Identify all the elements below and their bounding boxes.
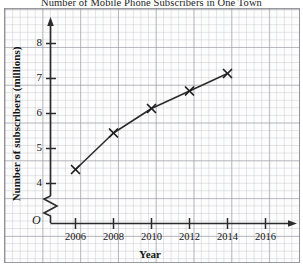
x-tick-label-2012: 2012 [170,231,210,242]
data-point-2006 [72,166,80,174]
x-axis-arrow [288,220,297,227]
data-point-2010 [148,105,156,113]
y-tick-label-7: 7 [26,71,42,83]
x-tick-label-2008: 2008 [94,231,134,242]
x-tick-label-2016: 2016 [246,231,286,242]
y-tick-label-5: 5 [26,141,42,153]
data-point-markers [72,70,232,174]
data-point-2014 [224,70,232,78]
y-tick-label-8: 8 [26,36,42,48]
data-point-2012 [186,87,194,95]
y-axis-title: Number of subscribers (millions) [10,44,22,204]
x-tick-label-2006: 2006 [56,231,96,242]
data-point-2008 [110,129,118,137]
axis-break-zigzag [44,196,57,223]
chart-container: Number of Mobile Phone Subscribers in On… [0,0,303,271]
y-axis-arrow [47,17,54,26]
x-tick-label-2014: 2014 [208,231,248,242]
x-tick-label-2010: 2010 [132,231,172,242]
x-axis-title: Year [120,248,180,260]
y-tick-label-4: 4 [26,176,42,188]
origin-label: O [32,213,41,228]
data-line-series-subscribers [76,74,228,170]
y-tick-label-6: 6 [26,106,42,118]
